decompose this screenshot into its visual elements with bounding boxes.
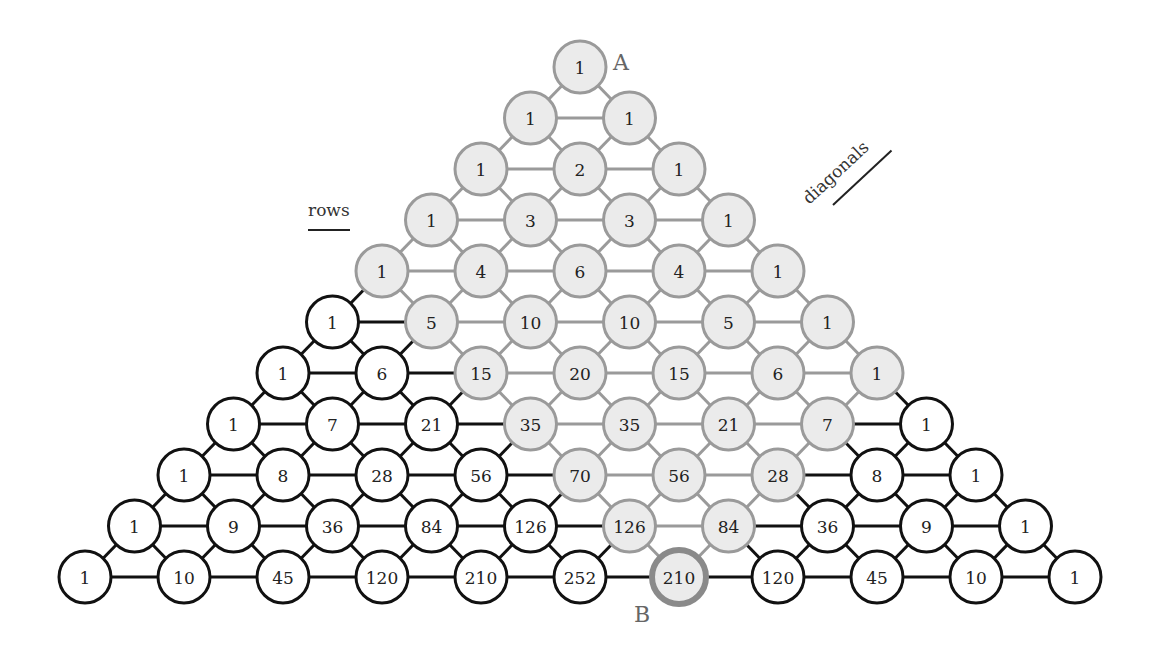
triangle-node: 3: [604, 194, 656, 246]
triangle-node: 10: [505, 296, 557, 348]
triangle-node: 1: [703, 194, 755, 246]
node-value: 1: [80, 568, 91, 588]
node-value: 1: [476, 160, 487, 180]
triangle-node: 1: [851, 347, 903, 399]
node-value: 8: [872, 466, 883, 486]
triangle-node: 1: [158, 449, 210, 501]
triangle-node: 28: [356, 449, 408, 501]
node-value: 126: [514, 517, 546, 537]
node-value: 84: [718, 517, 740, 537]
node-value: 10: [619, 313, 641, 333]
triangle-node: 5: [406, 296, 458, 348]
triangle-node: 9: [901, 500, 953, 552]
node-value: 35: [619, 415, 641, 435]
node-value: 84: [421, 517, 443, 537]
node-value: 56: [668, 466, 690, 486]
triangle-node: 10: [158, 551, 210, 603]
triangle-node: 4: [455, 245, 507, 297]
node-value: 1: [278, 364, 289, 384]
node-value: 1: [971, 466, 982, 486]
triangle-node: 1: [653, 143, 705, 195]
node-value: 1: [773, 262, 784, 282]
node-value: 4: [674, 262, 685, 282]
node-value: 1: [1020, 517, 1031, 537]
node-value: 15: [668, 364, 690, 384]
triangle-node: 84: [406, 500, 458, 552]
node-value: 56: [470, 466, 492, 486]
triangle-node: 210: [455, 551, 507, 603]
node-value: 20: [569, 364, 591, 384]
apex-node-a: 1: [554, 41, 606, 93]
node-value: 126: [613, 517, 645, 537]
triangle-node: 2: [554, 143, 606, 195]
triangle-node: 36: [802, 500, 854, 552]
triangle-node: 1: [950, 449, 1002, 501]
node-value: 21: [421, 415, 443, 435]
target-node-b: 210: [652, 550, 706, 604]
triangle-node: 1: [604, 92, 656, 144]
node-value: 1: [575, 58, 586, 78]
triangle-node: 84: [703, 500, 755, 552]
triangle-node: 21: [406, 398, 458, 450]
triangle-node: 1: [208, 398, 260, 450]
triangle-node: 36: [307, 500, 359, 552]
node-value: 1: [872, 364, 883, 384]
triangle-node: 1: [802, 296, 854, 348]
node-value: 21: [718, 415, 740, 435]
node-value: 1: [525, 109, 536, 129]
node-value: 1: [426, 211, 437, 231]
triangle-node: 15: [653, 347, 705, 399]
node-value: 9: [921, 517, 932, 537]
triangle-node: 3: [505, 194, 557, 246]
triangle-node: 70: [554, 449, 606, 501]
node-value: 210: [465, 568, 497, 588]
node-value: 3: [624, 211, 635, 231]
triangle-node: 1: [307, 296, 359, 348]
triangle-node: 35: [604, 398, 656, 450]
node-value: 5: [426, 313, 437, 333]
triangle-node: 7: [307, 398, 359, 450]
triangle-node: 1: [257, 347, 309, 399]
node-value: 35: [520, 415, 542, 435]
triangle-node: 8: [851, 449, 903, 501]
node-value: 6: [575, 262, 586, 282]
node-value: 4: [476, 262, 487, 282]
node-value: 1: [624, 109, 635, 129]
triangle-node: 120: [356, 551, 408, 603]
node-value: 6: [377, 364, 388, 384]
triangle-node: 6: [356, 347, 408, 399]
node-value: 45: [272, 568, 294, 588]
triangle-node: 4: [653, 245, 705, 297]
triangle-node: 28: [752, 449, 804, 501]
rows-label: rows: [308, 200, 350, 220]
triangle-node: 6: [554, 245, 606, 297]
triangle-node: 56: [653, 449, 705, 501]
node-value: 15: [470, 364, 492, 384]
node-value: 210: [663, 568, 695, 588]
node-value: 28: [371, 466, 393, 486]
triangle-node: 15: [455, 347, 507, 399]
triangle-node: 1: [1000, 500, 1052, 552]
node-value: 1: [723, 211, 734, 231]
triangle-node: 7: [802, 398, 854, 450]
node-value: 3: [525, 211, 536, 231]
node-value: 120: [366, 568, 398, 588]
triangle-node: 1: [356, 245, 408, 297]
triangle-node: 126: [505, 500, 557, 552]
node-value: 36: [322, 517, 344, 537]
triangle-node: 21: [703, 398, 755, 450]
node-value: 1: [327, 313, 338, 333]
triangle-node: 6: [752, 347, 804, 399]
rows-underline: [308, 229, 350, 231]
point-a-label: A: [613, 50, 629, 75]
node-value: 8: [278, 466, 289, 486]
triangle-node: 10: [950, 551, 1002, 603]
node-value: 7: [822, 415, 833, 435]
node-value: 36: [817, 517, 839, 537]
triangle-node: 126: [604, 500, 656, 552]
node-value: 7: [327, 415, 338, 435]
node-value: 10: [965, 568, 987, 588]
triangle-node: 252: [554, 551, 606, 603]
node-value: 1: [179, 466, 190, 486]
node-value: 1: [377, 262, 388, 282]
